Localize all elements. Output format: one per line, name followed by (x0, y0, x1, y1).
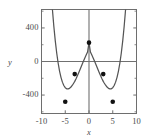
x-axis-label: x (75, 127, 103, 137)
y-tick-label-minus400: -400 (0, 90, 39, 99)
chart-figure: 400 0 -400 -10 -5 0 5 10 x y (0, 0, 156, 138)
x-tick-label-10: 10 (123, 117, 151, 126)
y-axis-label: y (8, 57, 12, 67)
y-tick-label-0: 0 (0, 57, 39, 66)
zero-axes (42, 10, 137, 114)
y-tick-label-400: 400 (0, 23, 39, 32)
